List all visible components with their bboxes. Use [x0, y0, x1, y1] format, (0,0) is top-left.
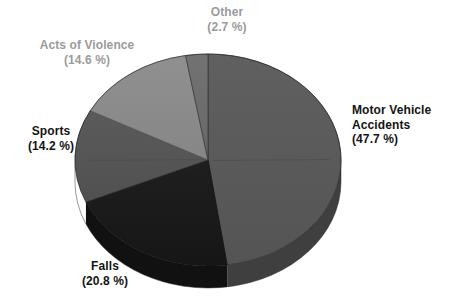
- slice-label-motor-vehicle-line1: Motor Vehicle: [352, 103, 455, 118]
- slice-label-acts-of-violence: Acts of Violence (14.6 %): [21, 38, 153, 67]
- slice-label-other-name: Other: [190, 5, 264, 20]
- pie-chart-figure: Other (2.7 %) Acts of Violence (14.6 %) …: [0, 0, 455, 296]
- slice-label-other-percent: (2.7 %): [190, 20, 264, 35]
- slice-label-motor-vehicle-line2: Accidents: [352, 118, 455, 133]
- slice-label-falls-percent: (20.8 %): [62, 274, 148, 289]
- slice-label-falls-name: Falls: [62, 259, 148, 274]
- slice-label-sports-name: Sports: [8, 124, 94, 139]
- slice-label-motor-vehicle-accidents: Motor Vehicle Accidents (47.7 %): [352, 103, 455, 147]
- slice-label-falls: Falls (20.8 %): [62, 259, 148, 288]
- slice-label-other: Other (2.7 %): [190, 5, 264, 34]
- slice-label-acts-of-violence-percent: (14.6 %): [21, 53, 153, 68]
- slice-label-acts-of-violence-name: Acts of Violence: [21, 38, 153, 53]
- slice-label-sports: Sports (14.2 %): [8, 124, 94, 153]
- slice-label-sports-percent: (14.2 %): [8, 139, 94, 154]
- slice-label-motor-vehicle-percent: (47.7 %): [352, 132, 455, 147]
